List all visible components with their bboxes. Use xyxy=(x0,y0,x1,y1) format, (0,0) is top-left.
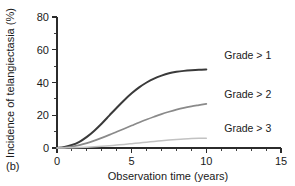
y-tick-label: 0 xyxy=(43,142,49,154)
series-label-grade-1: Grade > 1 xyxy=(224,49,271,61)
x-tick-label: 10 xyxy=(200,155,212,167)
curve-grade-3 xyxy=(57,138,206,148)
y-axis: 020406080 xyxy=(37,11,57,154)
incidence-of-telangiectasia-line-chart: 020406080 051015 Grade > 1Grade > 2Grade… xyxy=(0,0,295,186)
x-tick-label: 5 xyxy=(129,155,135,167)
series-label-grade-2: Grade > 2 xyxy=(224,88,271,100)
series-labels: Grade > 1Grade > 2Grade > 3 xyxy=(224,49,271,135)
y-tick-label: 80 xyxy=(37,11,49,23)
data-curves xyxy=(57,69,206,148)
y-tick-label: 40 xyxy=(37,77,49,89)
x-tick-label: 15 xyxy=(275,155,287,167)
y-tick-label: 20 xyxy=(37,109,49,121)
x-axis: 051015 xyxy=(54,148,287,167)
y-axis-title: Incidence of telangiectasia (%) xyxy=(4,8,16,158)
panel-label: (b) xyxy=(6,160,19,172)
x-tick-label: 0 xyxy=(54,155,60,167)
figure-panel-b: 020406080 051015 Grade > 1Grade > 2Grade… xyxy=(0,0,295,186)
x-axis-title: Observation time (years) xyxy=(108,170,228,182)
y-tick-label: 60 xyxy=(37,44,49,56)
series-label-grade-3: Grade > 3 xyxy=(224,122,271,134)
